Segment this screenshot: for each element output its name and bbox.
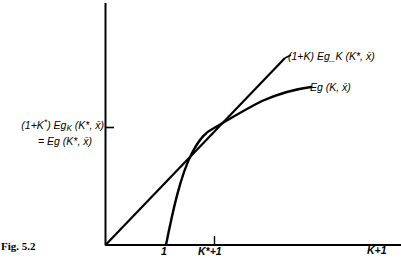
y-axis-value-label-line1: (1+K*) EgK (K*, x̄) — [21, 119, 104, 131]
x-tick-label-one: 1 — [161, 246, 167, 257]
figure-caption: Fig. 5.2 — [1, 241, 36, 253]
y-axis-value-label: (1+K*) EgK (K*, x̄) = Eg (K*, x̄) — [0, 117, 104, 147]
x-tick-label-kstar: K*+1 — [198, 246, 222, 257]
production-curve — [166, 87, 311, 245]
tangent-line-label: (1+K) Eg_K (K*, x̄) — [288, 51, 375, 62]
figure-container: (1+K*) EgK (K*, x̄) = Eg (K*, x̄) (1+K) … — [0, 0, 401, 258]
tangent-line — [106, 58, 286, 245]
y-axis-value-label-line2: = Eg (K*, x̄) — [0, 136, 104, 147]
x-axis-title: K+1 — [367, 245, 387, 256]
production-curve-label: Eg (K, x̄) — [310, 82, 351, 93]
